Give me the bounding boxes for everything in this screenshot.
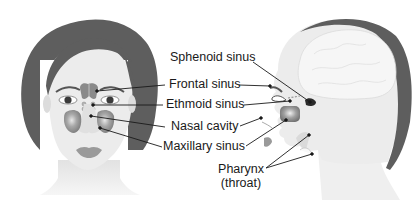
label-pharynx-line2: (throat): [214, 176, 268, 190]
front-view-head: [21, 19, 158, 195]
label-frontal-sinus: Frontal sinus: [169, 77, 241, 91]
label-sphenoid-sinus: Sphenoid sinus: [170, 50, 255, 64]
side-view-head: [262, 19, 412, 200]
side-maxillary-sinus: [280, 106, 300, 122]
label-maxillary-sinus: Maxillary sinus: [163, 139, 245, 153]
side-lips: [264, 137, 272, 147]
side-brain: [298, 30, 396, 99]
label-pharynx-line1: Pharynx: [214, 162, 268, 176]
label-nasal-cavity: Nasal cavity: [171, 119, 238, 133]
label-pharynx: Pharynx (throat): [214, 162, 268, 190]
label-ethmoid-sinus: Ethmoid sinus: [166, 97, 245, 111]
